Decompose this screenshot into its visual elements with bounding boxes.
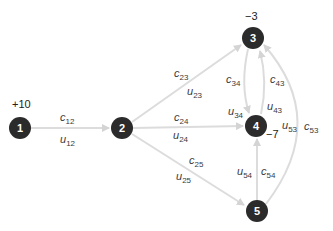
cap-label-23: u23: [187, 86, 202, 100]
node-1: 1: [9, 117, 31, 139]
supply-node-3: −3: [245, 11, 258, 22]
edge-3-4: [244, 49, 249, 113]
cost-label-12: c12: [60, 112, 74, 126]
node-4-label: 4: [253, 120, 259, 132]
node-5: 5: [246, 200, 268, 222]
edge-4-3: [260, 51, 264, 114]
edge-2-3: [132, 45, 241, 122]
node-2: 2: [111, 117, 133, 139]
supply-node-4: −7: [266, 129, 279, 140]
node-1-label: 1: [17, 122, 23, 134]
cap-label-53: u53: [282, 120, 297, 134]
cost-label-53: c53: [304, 121, 318, 135]
cap-label-34: u34: [228, 106, 243, 120]
cost-label-25: c25: [189, 155, 203, 169]
supply-node-1: +10: [12, 99, 31, 110]
edge-2-5: [132, 134, 244, 205]
cap-label-54: u54: [237, 166, 252, 180]
cost-label-34: c34: [226, 74, 240, 88]
cap-label-25: u25: [176, 171, 191, 185]
cost-label-54: c54: [261, 166, 275, 180]
cap-label-24: u24: [173, 130, 188, 144]
cost-label-43: c43: [270, 74, 284, 88]
cap-label-43: u43: [267, 101, 282, 115]
edge-2-4: [133, 126, 243, 128]
cap-label-12: u12: [60, 134, 75, 148]
node-5-label: 5: [254, 205, 260, 217]
node-3: 3: [242, 27, 264, 49]
network-edges: [0, 0, 333, 231]
cost-label-23: c23: [174, 68, 188, 82]
node-2-label: 2: [119, 122, 125, 134]
cost-label-24: c24: [174, 112, 188, 126]
node-4: 4: [245, 115, 267, 137]
node-3-label: 3: [250, 32, 256, 44]
